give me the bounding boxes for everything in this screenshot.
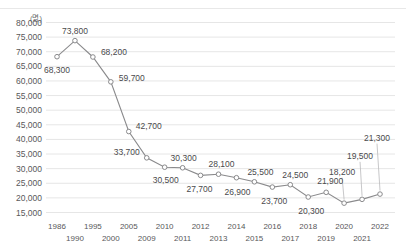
data-point-label: 30,500 [153, 175, 179, 185]
data-point-marker [342, 201, 347, 206]
x-axis-tick: 2021 [353, 234, 371, 243]
y-axis-tick: 80,000 [16, 18, 42, 28]
data-point-marker [55, 54, 60, 59]
data-point-marker [216, 172, 221, 177]
y-axis-tick: 50,000 [16, 105, 42, 115]
x-axis-tick-labels: 1986199019952000200520092010201120122013… [48, 222, 389, 243]
x-axis-tick: 2022 [371, 222, 389, 231]
y-axis-tick: 45,000 [16, 120, 42, 130]
data-point-label: 25,500 [247, 167, 273, 177]
x-axis-tick: 2017 [281, 234, 299, 243]
y-axis-tick-labels: 80,00075,00070,00065,00060,00055,00050,0… [16, 18, 42, 218]
data-point-marker [360, 197, 365, 202]
data-point-label: 28,100 [209, 159, 235, 169]
x-axis-tick: 2018 [299, 222, 317, 231]
x-axis-tick: 1995 [84, 222, 102, 231]
data-point-marker [73, 38, 78, 43]
y-axis-tick: 65,000 [16, 61, 42, 71]
data-point-marker [198, 173, 203, 178]
data-point-label: 21,900 [317, 176, 343, 186]
data-point-label: 30,300 [171, 153, 197, 163]
label-leader-line [360, 162, 362, 196]
data-point-label: 59,700 [119, 73, 145, 83]
data-point-marker [288, 182, 293, 187]
y-axis-tick: 15,000 [16, 208, 42, 218]
x-axis-tick: 2012 [192, 222, 210, 231]
data-point-marker [109, 80, 114, 85]
data-point-label: 18,200 [329, 167, 355, 177]
x-axis-tick: 2000 [102, 234, 120, 243]
x-axis-tick: 2009 [138, 234, 156, 243]
y-axis-tick: 75,000 [16, 32, 42, 42]
data-point-marker [91, 55, 96, 60]
y-axis-tick: 25,000 [16, 178, 42, 188]
x-axis-tick: 2016 [263, 222, 281, 231]
y-axis-tick: 20,000 [16, 193, 42, 203]
data-point-label: 19,500 [347, 151, 373, 161]
data-point-label: 21,300 [364, 133, 390, 143]
data-point-marker [378, 192, 383, 197]
data-point-label: 42,700 [136, 121, 162, 131]
data-point-label: 26,900 [224, 187, 250, 197]
data-point-marker [180, 165, 185, 170]
x-axis-tick: 1990 [66, 234, 84, 243]
x-axis-tick: 2013 [210, 234, 228, 243]
y-axis-tick: 35,000 [16, 149, 42, 159]
x-axis-tick: 2014 [228, 222, 246, 231]
data-point-marker [126, 129, 131, 134]
data-point-marker [270, 185, 275, 190]
y-axis-tick: 55,000 [16, 91, 42, 101]
data-point-label: 33,700 [114, 147, 140, 157]
x-axis-tick: 1986 [48, 222, 66, 231]
x-axis-tick: 2015 [245, 234, 263, 243]
data-point-marker [144, 156, 149, 161]
line-chart-svg: 80,00075,00070,00065,00060,00055,00050,0… [0, 0, 406, 252]
x-axis-tick: 2010 [156, 222, 174, 231]
x-axis-tick: 2019 [317, 234, 335, 243]
data-point-marker [234, 175, 239, 180]
data-point-label: 20,300 [298, 206, 324, 216]
data-point-label: 73,800 [62, 26, 88, 36]
x-axis-tick: 2005 [120, 222, 138, 231]
data-point-label: 68,300 [44, 65, 70, 75]
data-point-label: 24,500 [282, 170, 308, 180]
y-axis-tick: 40,000 [16, 134, 42, 144]
data-point-marker [162, 165, 167, 170]
data-point-marker [324, 190, 329, 195]
x-axis-tick: 2011 [174, 234, 192, 243]
data-point-marker [306, 195, 311, 200]
data-point-label: 68,200 [101, 47, 127, 57]
data-point-label: 23,700 [261, 196, 287, 206]
data-point-label: 27,700 [187, 184, 213, 194]
y-axis-tick: 30,000 [16, 164, 42, 174]
chart-container: (명) 80,00075,00070,00065,00060,00055,000… [0, 0, 406, 252]
y-axis-tick: 70,000 [16, 47, 42, 57]
y-axis-tick: 60,000 [16, 76, 42, 86]
data-point-labels: 68,30073,80068,20059,70042,70033,70030,5… [44, 26, 390, 216]
data-point-marker [252, 180, 257, 185]
x-axis-tick: 2020 [335, 222, 353, 231]
